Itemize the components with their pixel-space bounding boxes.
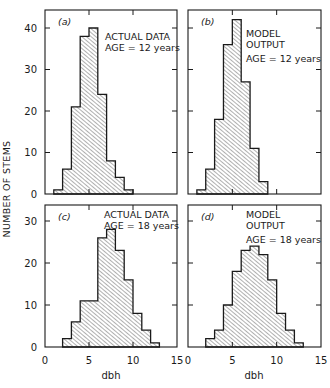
panel-label: (b)	[201, 16, 214, 27]
x-tick-label: 15	[315, 355, 328, 366]
x-tick-label: 0	[42, 355, 48, 366]
y-tick-label: 0	[31, 189, 37, 200]
panel-d: 051015(d)MODELOUTPUTAGE = 18 years	[185, 205, 328, 366]
panel-annotation: MODEL	[246, 209, 281, 220]
y-tick-label: 30	[24, 216, 37, 227]
panel-annotation: AGE = 18 years	[104, 220, 179, 231]
y-tick-label: 20	[24, 106, 37, 117]
histogram-bars	[206, 246, 304, 347]
panel-c: 0102030051015(c)ACTUAL DATAAGE = 18 year…	[24, 205, 183, 366]
y-axis-label: NUMBER OF STEMS	[1, 119, 15, 259]
y-tick-label: 10	[24, 147, 37, 158]
x-axis-label-right: dbh	[234, 370, 274, 381]
panel-annotation: AGE = 12 years	[246, 53, 321, 64]
y-tick-label: 30	[24, 64, 37, 75]
panel-annotation: OUTPUT	[246, 39, 285, 50]
x-tick-label: 15	[171, 355, 184, 366]
y-tick-label: 10	[24, 300, 37, 311]
panel-annotation: OUTPUT	[246, 220, 285, 231]
x-tick-label: 5	[229, 355, 235, 366]
y-tick-label: 40	[24, 23, 37, 34]
x-tick-label: 5	[86, 355, 92, 366]
panel-label: (d)	[201, 211, 214, 222]
panel-b: (b)MODELOUTPUTAGE = 12 years	[188, 10, 321, 194]
x-tick-label: 0	[185, 355, 191, 366]
x-axis-label-left: dbh	[91, 370, 131, 381]
histogram-bars	[63, 229, 160, 347]
panel-annotation: AGE = 12 years	[105, 42, 180, 53]
x-tick-label: 10	[127, 355, 140, 366]
y-tick-label: 0	[31, 342, 37, 353]
x-tick-label: 10	[270, 355, 283, 366]
panel-label: (c)	[58, 211, 71, 222]
panel-a: 010203040(a)ACTUAL DATAAGE = 12 years	[24, 10, 180, 200]
panel-annotation: ACTUAL DATA	[105, 31, 171, 42]
panel-annotation: AGE = 18 years	[246, 234, 321, 245]
y-tick-label: 20	[24, 258, 37, 269]
panel-label: (a)	[58, 16, 71, 27]
panel-annotation: ACTUAL DATA	[104, 209, 170, 220]
histogram-figure: 010203040(a)ACTUAL DATAAGE = 12 years(b)…	[0, 0, 330, 388]
histogram-panels: 010203040(a)ACTUAL DATAAGE = 12 years(b)…	[0, 0, 330, 388]
panel-annotation: MODEL	[246, 28, 281, 39]
